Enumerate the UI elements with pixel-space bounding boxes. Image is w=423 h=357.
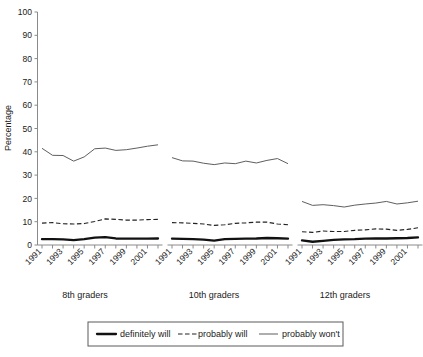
x-tick-label: 1995 <box>325 246 346 267</box>
x-tick-label: 2001 <box>388 246 409 267</box>
y-tick-label: 10 <box>23 217 33 227</box>
x-tick-label: 1999 <box>107 246 128 267</box>
x-tick-label: 1997 <box>346 246 367 267</box>
y-tick-label: 70 <box>23 77 33 87</box>
x-tick-label: 2001 <box>128 246 149 267</box>
y-tick-label: 60 <box>23 100 33 110</box>
y-axis: 0102030405060708090100 <box>18 7 38 250</box>
legend-label: probably won't <box>282 329 340 339</box>
y-tick-label: 50 <box>23 124 33 134</box>
x-tick-label: 2001 <box>258 246 279 267</box>
group-label: 8th graders <box>62 290 108 300</box>
x-tick-label: 1995 <box>195 246 216 267</box>
x-tick-label: 1993 <box>44 246 65 267</box>
x-tick-label: 1999 <box>367 246 388 267</box>
x-tick-label: 1991 <box>23 246 44 267</box>
series-line-probably-will <box>302 228 418 233</box>
x-tick-label: 1991 <box>153 246 174 267</box>
legend-label: probably will <box>198 329 248 339</box>
y-tick-label: 80 <box>23 54 33 64</box>
x-tick-label: 1997 <box>216 246 237 267</box>
x-axis: 1991199319951997199920011991199319951997… <box>23 245 423 267</box>
series-line-definitely-will <box>172 238 288 241</box>
y-tick-label: 90 <box>23 30 33 40</box>
group-label: 12th graders <box>320 290 371 300</box>
legend-label: definitely will <box>120 329 171 339</box>
y-axis-title-text: Percentage <box>3 105 13 151</box>
series-line-probably-won-t <box>42 145 158 161</box>
series-line-probably-will <box>172 222 288 225</box>
line-chart-svg: 0102030405060708090100 19911993199519971… <box>0 0 423 357</box>
x-tick-label: 1999 <box>237 246 258 267</box>
series-lines <box>42 145 418 242</box>
group-labels: 8th graders10th graders12th graders <box>62 290 371 300</box>
chart-container: 0102030405060708090100 19911993199519971… <box>0 0 423 357</box>
series-line-probably-won-t <box>172 158 288 165</box>
y-axis-title: Percentage <box>3 105 13 151</box>
x-tick-label: 1991 <box>283 246 304 267</box>
y-tick-label: 40 <box>23 147 33 157</box>
x-tick-label: 1997 <box>86 246 107 267</box>
series-line-probably-will <box>42 219 158 224</box>
x-tick-label: 1995 <box>65 246 86 267</box>
series-line-probably-won-t <box>302 201 418 207</box>
series-line-definitely-will <box>42 237 158 240</box>
y-tick-label: 30 <box>23 170 33 180</box>
y-tick-label: 100 <box>18 7 32 17</box>
x-tick-label: 1993 <box>174 246 195 267</box>
x-tick-label: 1993 <box>304 246 325 267</box>
chart-legend: definitely willprobably willprobably won… <box>88 322 343 346</box>
series-line-definitely-will <box>302 237 418 241</box>
y-tick-label: 0 <box>27 240 32 250</box>
y-tick-label: 20 <box>23 194 33 204</box>
group-label: 10th graders <box>189 290 240 300</box>
